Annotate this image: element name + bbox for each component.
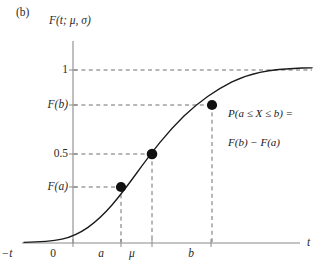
- x-tick-label-zero: 0: [33, 248, 73, 260]
- marker-point-b: [207, 100, 217, 110]
- x-tick-label-b: b: [171, 248, 211, 260]
- x-tick-label-mu: μ: [112, 248, 152, 260]
- y-axis-title: F(t; μ, σ): [49, 15, 91, 27]
- panel-label: (b): [16, 7, 29, 19]
- cdf-figure: (b) F(t; μ, σ) t 1 F(b) 0.5 F(a) −t 0 a …: [0, 0, 324, 269]
- marker-point-mu: [147, 149, 158, 160]
- x-tick-label-negative-t: −t: [0, 248, 27, 260]
- probability-annotation-line-1: P(a ≤ X ≤ b) =: [228, 108, 293, 119]
- y-tick-label-one: 1: [18, 64, 68, 76]
- tick-marks-group: [69, 70, 211, 247]
- reference-lines-group: [74, 70, 312, 242]
- y-tick-label-fa: F(a): [18, 181, 68, 193]
- data-markers-group: [116, 100, 217, 192]
- probability-annotation-line-2: F(b) − F(a): [228, 137, 293, 148]
- y-tick-label-half: 0.5: [18, 148, 68, 160]
- marker-point-a: [116, 182, 126, 192]
- x-axis-title: t: [307, 237, 310, 249]
- y-tick-label-fb: F(b): [18, 99, 68, 111]
- probability-annotation: P(a ≤ X ≤ b) = F(b) − F(a): [228, 108, 293, 148]
